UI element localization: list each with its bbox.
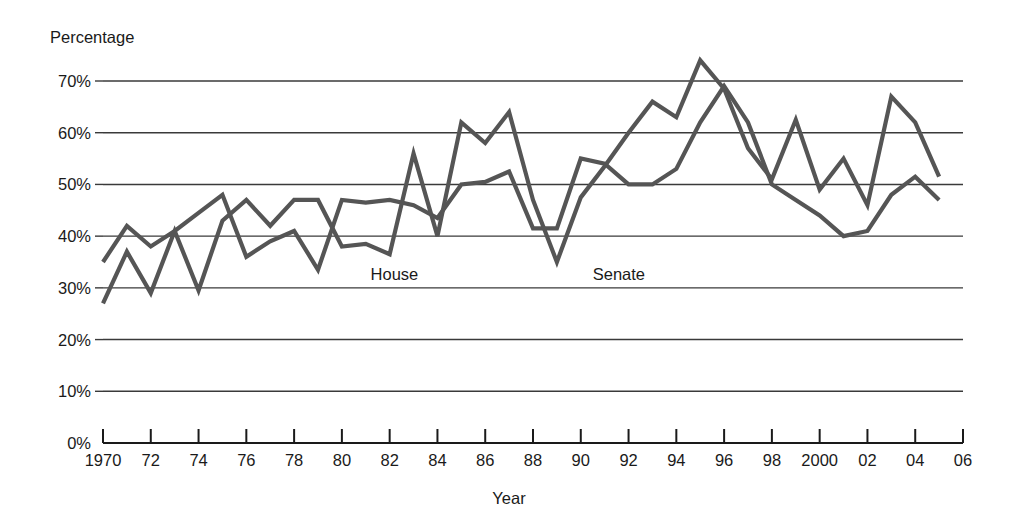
x-axis-title: Year xyxy=(492,489,526,507)
x-tick-label: 98 xyxy=(763,451,781,469)
x-tick-label: 94 xyxy=(667,451,685,469)
x-tick-label: 82 xyxy=(380,451,398,469)
y-tick-label: 50% xyxy=(58,175,91,193)
x-tick-label: 76 xyxy=(237,451,255,469)
y-tick-label: 10% xyxy=(58,382,91,400)
x-tick-label: 88 xyxy=(524,451,542,469)
y-tick-label: 30% xyxy=(58,279,91,297)
x-axis-tick-labels: 1970727476788082848688909294969820000204… xyxy=(85,451,973,469)
x-tick-label: 2000 xyxy=(801,451,838,469)
x-tick-label: 72 xyxy=(142,451,160,469)
gridlines xyxy=(103,81,963,391)
x-tick-label: 90 xyxy=(572,451,590,469)
x-tick-label: 96 xyxy=(715,451,733,469)
x-tick-label: 06 xyxy=(954,451,972,469)
x-tick-label: 74 xyxy=(189,451,207,469)
x-tick-label: 1970 xyxy=(85,451,122,469)
series-label-senate: Senate xyxy=(593,265,645,283)
x-axis xyxy=(103,429,963,443)
y-tick-label: 70% xyxy=(58,72,91,90)
x-tick-label: 04 xyxy=(906,451,924,469)
x-tick-label: 02 xyxy=(858,451,876,469)
x-tick-label: 78 xyxy=(285,451,303,469)
y-tick-label: 20% xyxy=(58,331,91,349)
y-tick-label: 0% xyxy=(67,434,91,452)
y-axis-title: Percentage xyxy=(50,28,134,46)
series-labels: HouseSenate xyxy=(371,265,645,283)
x-tick-label: 92 xyxy=(619,451,637,469)
data-series xyxy=(103,60,939,303)
x-tick-label: 80 xyxy=(333,451,351,469)
line-chart: 0%10%20%30%40%50%60%70% 1970727476788082… xyxy=(0,0,1019,527)
y-tick-label: 40% xyxy=(58,227,91,245)
series-line-senate xyxy=(103,60,939,303)
y-tick-label: 60% xyxy=(58,124,91,142)
y-axis-tick-labels: 0%10%20%30%40%50%60%70% xyxy=(58,72,103,452)
x-tick-label: 84 xyxy=(428,451,446,469)
series-label-house: House xyxy=(371,265,419,283)
x-tick-label: 86 xyxy=(476,451,494,469)
chart-container: 0%10%20%30%40%50%60%70% 1970727476788082… xyxy=(0,0,1019,527)
